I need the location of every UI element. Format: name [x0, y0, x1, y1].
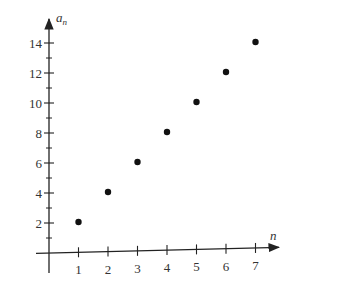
- x-tick-label: 1: [75, 262, 82, 277]
- y-tick-label: 8: [36, 126, 43, 141]
- y-tick-label: 6: [36, 156, 43, 171]
- x-axis: [36, 247, 279, 253]
- data-point: [193, 99, 199, 105]
- x-tick-label: 5: [193, 259, 200, 274]
- scatter-chart: 12345672468101214 n an: [0, 0, 341, 285]
- x-axis-label: n: [270, 228, 277, 243]
- x-tick-label: 3: [134, 261, 141, 276]
- data-point: [223, 69, 229, 75]
- x-tick-label: 4: [164, 260, 171, 275]
- y-axis-label: an: [56, 10, 68, 27]
- data-point: [134, 159, 140, 165]
- x-tick-label: 2: [105, 262, 112, 277]
- data-point: [164, 129, 170, 135]
- data-point: [105, 189, 111, 195]
- data-point: [252, 39, 258, 45]
- y-tick-label: 12: [29, 66, 42, 81]
- x-tick-label: 7: [252, 258, 259, 273]
- y-tick-label: 2: [36, 216, 43, 231]
- data-point: [75, 219, 81, 225]
- y-tick-label: 4: [36, 186, 43, 201]
- axes: [36, 19, 279, 273]
- x-tick-label: 6: [223, 259, 230, 274]
- y-tick-label: 14: [29, 36, 43, 51]
- y-tick-label: 10: [29, 96, 42, 111]
- data-points: [75, 39, 258, 225]
